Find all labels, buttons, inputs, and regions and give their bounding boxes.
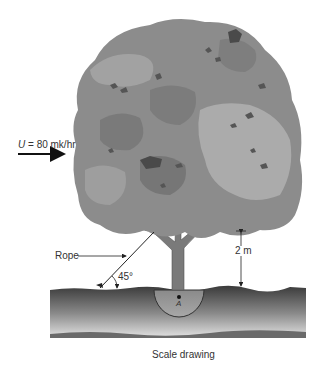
- wind-symbol: U: [18, 139, 25, 150]
- height-label: 2 m: [234, 246, 253, 256]
- angle-arc: [112, 276, 117, 288]
- rope-anchor-icon: [96, 283, 103, 288]
- rope-label: Rope: [55, 251, 79, 261]
- tree-canopy: [73, 19, 302, 238]
- wind-value: = 80 mk/hr: [28, 139, 76, 150]
- point-a-label: A: [176, 300, 181, 308]
- figure-caption: Scale drawing: [152, 350, 215, 360]
- height-dimension: [236, 231, 246, 286]
- angle-label: 45°: [118, 272, 133, 282]
- tree-wind-diagram: U = 80 mk/hr Rope 45° 2 m A Scale drawin…: [0, 0, 322, 365]
- wind-speed-label: U = 80 mk/hr: [18, 140, 76, 150]
